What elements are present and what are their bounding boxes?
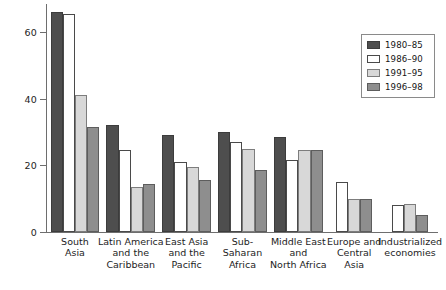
bar: [218, 132, 230, 232]
bar: [162, 135, 174, 232]
legend-swatch-icon: [367, 69, 380, 77]
legend-item-label: 1996–98: [385, 82, 423, 92]
y-axis-tick-label: 20: [25, 160, 38, 171]
bar: [255, 170, 267, 232]
bar: [131, 187, 143, 232]
bar: [336, 182, 348, 232]
bar: [274, 137, 286, 232]
bar: [360, 199, 372, 232]
bar: [311, 150, 323, 232]
bar: [230, 142, 242, 232]
bar-group: [159, 0, 215, 232]
bar: [416, 215, 428, 232]
chart-legend: 1980–851986–901991–951996–98: [361, 34, 435, 98]
y-axis-tick-label: 60: [25, 27, 38, 38]
bar: [348, 199, 360, 232]
legend-swatch-icon: [367, 41, 380, 49]
bar: [75, 95, 87, 232]
legend-item[interactable]: 1996–98: [367, 81, 430, 93]
bar: [87, 127, 99, 232]
bar: [63, 14, 75, 232]
legend-item-label: 1986–90: [385, 54, 423, 64]
legend-item-label: 1980–85: [385, 40, 423, 50]
legend-item[interactable]: 1980–85: [367, 39, 430, 51]
bar-group: [215, 0, 271, 232]
bar: [51, 12, 63, 232]
y-axis-tick: [40, 232, 46, 233]
legend-item[interactable]: 1986–90: [367, 53, 430, 65]
legend-swatch-icon: [367, 55, 380, 63]
bar: [404, 204, 416, 232]
x-axis-labels: SouthAsiaLatin Americaand theCaribbeanEa…: [47, 236, 438, 290]
bar: [286, 160, 298, 232]
bar-group: [47, 0, 103, 232]
x-axis-label-line: Industrialized: [372, 236, 446, 247]
x-axis-label-line: Asia: [316, 259, 392, 270]
legend-swatch-icon: [367, 83, 380, 91]
legend-item[interactable]: 1991–95: [367, 67, 430, 79]
bar: [298, 150, 310, 232]
bar: [392, 205, 404, 232]
y-axis-tick-label: 40: [25, 93, 38, 104]
x-axis-line: [46, 232, 438, 233]
bar: [106, 125, 118, 232]
y-axis-tick: [40, 32, 46, 33]
bar: [242, 149, 254, 232]
y-axis-tick: [40, 165, 46, 166]
y-axis-labels: 0204060: [0, 0, 37, 290]
x-axis-label-line: economies: [372, 247, 446, 258]
bar: [143, 184, 155, 232]
legend-item-label: 1991–95: [385, 68, 423, 78]
bar-group: [270, 0, 326, 232]
bar: [199, 180, 211, 232]
y-axis-tick: [40, 99, 46, 100]
bar: [119, 150, 131, 232]
bar: [187, 167, 199, 232]
x-axis-label: Industrializedeconomies: [372, 236, 446, 259]
bar: [174, 162, 186, 232]
bar-group: [103, 0, 159, 232]
